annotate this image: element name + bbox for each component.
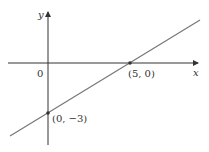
point-0-neg3 [46,111,50,115]
x-axis-label: x [193,67,199,78]
y-axis-label: y [37,9,44,20]
origin-label: 0 [37,68,43,79]
point-5-0 [128,61,132,65]
point-label-0-neg3: (0, −3) [52,113,87,124]
graph-canvas: y x 0 (5, 0) (0, −3) [0,0,209,152]
point-label-5-0: (5, 0) [128,68,155,79]
